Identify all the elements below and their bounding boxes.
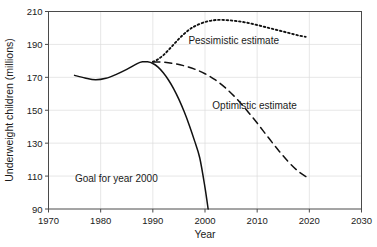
- series-annotation-label: Goal for year 2000: [75, 173, 158, 184]
- line-chart-svg: 1970198019902000201020202030 90110130150…: [0, 0, 377, 247]
- annotations-group: Pessimistic estimateOptimistic estimateG…: [75, 35, 297, 184]
- x-tick-label: 2030: [351, 215, 372, 226]
- x-tick-label: 2020: [299, 215, 320, 226]
- x-axis-title: Year: [194, 228, 216, 240]
- chart-container: 1970198019902000201020202030 90110130150…: [0, 0, 377, 247]
- y-tick-label: 210: [27, 6, 43, 17]
- x-tick-label: 1990: [142, 215, 163, 226]
- y-tick-label: 110: [27, 171, 42, 182]
- x-tick-label: 2010: [247, 215, 268, 226]
- x-tick-label: 2000: [194, 215, 215, 226]
- series-annotation-label: Pessimistic estimate: [188, 35, 279, 46]
- series-annotation-label: Optimistic estimate: [212, 100, 297, 111]
- x-tick-label: 1980: [90, 215, 111, 226]
- y-tick-label: 170: [27, 72, 43, 83]
- y-tick-label: 90: [32, 204, 43, 215]
- y-tick-label: 150: [27, 105, 43, 116]
- xtick-labels-group: 1970198019902000201020202030: [38, 215, 372, 226]
- series-line-solid: [75, 62, 209, 209]
- series-line-dashed: [153, 62, 309, 179]
- x-tick-label: 1970: [38, 215, 59, 226]
- y-tick-label: 190: [27, 39, 43, 50]
- y-axis-title: Underweight children (millions): [3, 38, 15, 182]
- ytick-labels-group: 90110130150170190210: [27, 6, 43, 215]
- y-tick-label: 130: [27, 138, 43, 149]
